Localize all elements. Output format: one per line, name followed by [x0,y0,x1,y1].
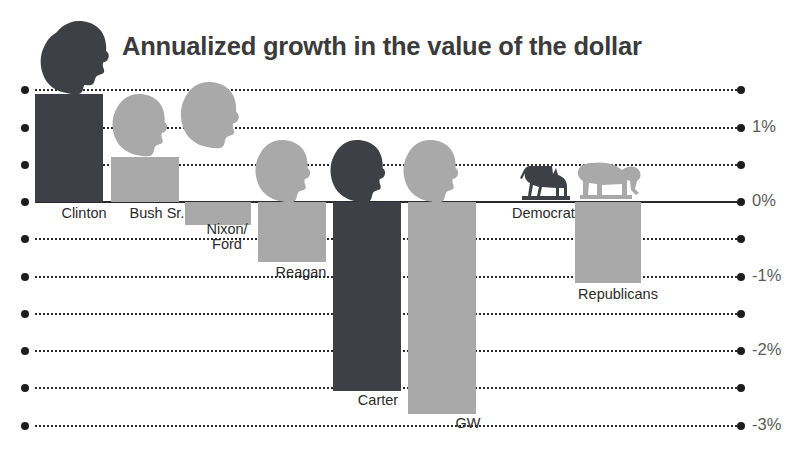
gridline-dot-left [21,198,29,206]
gridline-dot-right [737,235,745,243]
y-axis-tick-label: -1% [752,266,781,285]
gridline-dot-right [737,86,745,94]
president-head-icon [327,138,389,204]
gridline-dot-right [737,124,745,132]
president-head-icon [400,138,462,204]
gridline-dot-left [21,86,29,94]
y-axis-tick-label: 1% [752,117,776,136]
gridline-dot-right [737,198,745,206]
gridline-dot-left [21,310,29,318]
plot-area: 1%0%-1%-2%-3%ClintonBush Sr.Nixon/ FordR… [0,0,796,461]
gridline-dot-left [21,124,29,132]
bar-category-label: Reagan [257,265,345,280]
bar [408,202,476,414]
gridline-dot-right [737,310,745,318]
elephant-icon [572,159,646,203]
bar-category-label: GW [424,416,512,431]
president-head-icon [178,80,242,150]
gridline-dot-left [21,384,29,392]
gridline-dot-right [737,273,745,281]
gridline [35,425,741,427]
gridline-dot-left [21,235,29,243]
donkey-icon [512,163,576,203]
gridline-dot-left [21,161,29,169]
chart-root: Annualized growth in the value of the do… [0,0,796,461]
y-axis-tick-label: -2% [752,340,781,359]
gridline-dot-left [21,422,29,430]
bar [111,157,179,202]
y-axis-tick-label: -3% [752,415,781,434]
gridline-dot-left [21,347,29,355]
gridline-dot-right [737,161,745,169]
gridline-dot-right [737,384,745,392]
president-head-icon [110,92,170,158]
bar-category-label: Republicans [575,287,661,302]
bar [333,202,401,391]
bar [35,94,103,202]
y-axis-tick-label: 0% [752,191,776,210]
gridline-dot-right [737,422,745,430]
bar [575,202,641,283]
gridline-dot-right [737,347,745,355]
bar [258,202,326,262]
gridline [35,89,741,91]
president-head-icon [38,28,100,96]
gridline-dot-left [21,273,29,281]
president-head-icon [252,138,314,204]
